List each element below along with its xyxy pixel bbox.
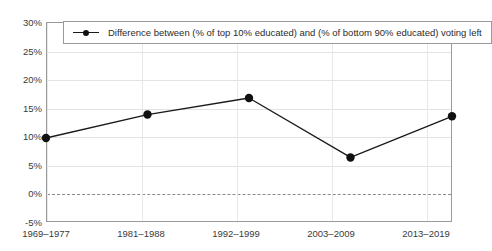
y-tick-label: 20% xyxy=(0,74,42,85)
data-series xyxy=(46,22,452,222)
data-point xyxy=(245,94,253,102)
y-tick-label: 10% xyxy=(0,131,42,142)
x-tick-label: 1969–1977 xyxy=(22,228,70,239)
y-tick-label: 5% xyxy=(0,159,42,170)
chart-legend: Difference between (% of top 10% educate… xyxy=(63,21,492,44)
data-point xyxy=(346,153,354,161)
x-tick-label: 2013–2019 xyxy=(402,228,450,239)
y-axis-labels: 30% 25% 20% 15% 10% 5% 0% -5% xyxy=(0,22,42,222)
legend-entry-label: Difference between (% of top 10% educate… xyxy=(108,28,482,38)
y-tick-label: 25% xyxy=(0,45,42,56)
data-point xyxy=(42,134,50,142)
x-tick-label: 1992–1999 xyxy=(212,228,260,239)
series-line xyxy=(46,98,452,157)
x-axis-labels: 1969–1977 1981–1988 1992–1999 2003–2009 … xyxy=(46,228,452,246)
y-tick-label: 15% xyxy=(0,102,42,113)
data-point xyxy=(448,112,456,120)
y-tick-label: -5% xyxy=(0,217,42,228)
x-tick-label: 1981–1988 xyxy=(117,228,165,239)
data-point xyxy=(143,110,151,118)
y-tick-label: 0% xyxy=(0,188,42,199)
series-markers xyxy=(42,94,456,162)
legend-marker-icon xyxy=(73,28,99,38)
y-tick-label: 30% xyxy=(0,17,42,28)
x-tick-label: 2003–2009 xyxy=(307,228,355,239)
